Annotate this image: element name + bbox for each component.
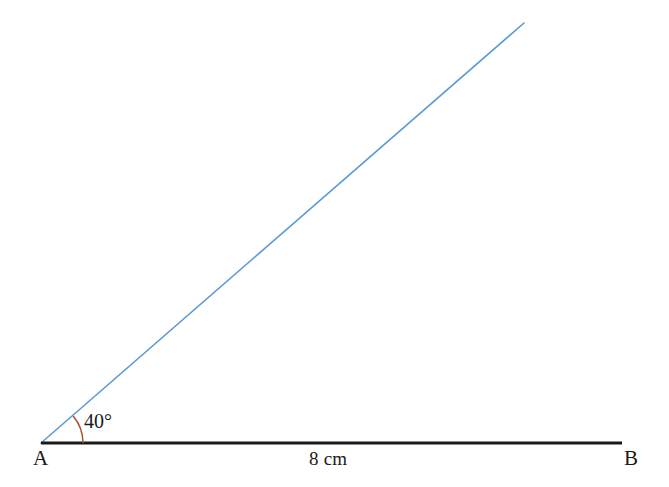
angle-measure-label: 40° [84,411,112,431]
angle-arc-at-a [73,416,83,443]
endpoint-label-b: B [624,448,638,469]
ray-line-ac [41,23,524,443]
vertex-label-a: A [33,448,48,469]
segment-length-label: 8 cm [309,449,347,468]
geometry-figure: A B 8 cm 40° [0,0,669,487]
